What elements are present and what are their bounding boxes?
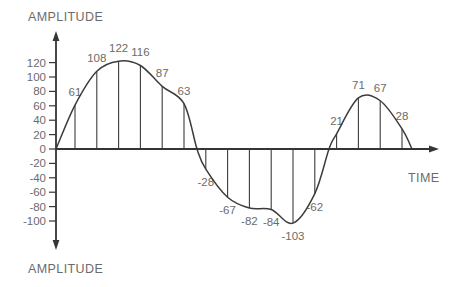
y-tick-label: 60 — [33, 100, 46, 112]
y-axis-label-top: AMPLITUDE — [28, 10, 103, 24]
sample-value-label: 71 — [352, 79, 365, 91]
y-tick-label: 20 — [33, 129, 46, 141]
y-tick-label: 0 — [40, 143, 46, 155]
sample-value-label: -62 — [306, 201, 323, 213]
sample-value-label: 87 — [156, 67, 169, 79]
sample-value-label: 122 — [109, 42, 128, 54]
y-tick-label: -100 — [23, 215, 46, 227]
y-tick-label: 120 — [27, 57, 46, 69]
sample-value-label: -103 — [281, 230, 304, 242]
sample-value-label: 116 — [131, 46, 149, 58]
y-tick-label: 40 — [33, 114, 46, 126]
sample-value-label: 28 — [396, 110, 409, 122]
sample-value-label: -67 — [219, 204, 236, 216]
y-tick-label: -20 — [29, 157, 46, 169]
y-axis-arrow-up-icon — [53, 31, 60, 41]
y-tick-label: 80 — [33, 85, 46, 97]
y-tick-label: 100 — [27, 71, 46, 83]
x-axis-label: TIME — [408, 171, 439, 185]
waveform-chart: 120100806040200-20-40-60-80-100611081221… — [0, 0, 456, 287]
x-axis-arrow-right-icon — [429, 146, 439, 153]
y-tick-label: -40 — [29, 172, 46, 184]
sample-value-label: 108 — [87, 52, 106, 64]
sample-value-label: -84 — [263, 216, 280, 228]
sample-value-label: 63 — [178, 85, 191, 97]
y-axis-arrow-down-icon — [53, 240, 60, 250]
y-axis-label-bottom: AMPLITUDE — [28, 262, 103, 276]
y-tick-label: -80 — [29, 201, 46, 213]
y-tick-label: -60 — [29, 186, 46, 198]
waveform-figure: 120100806040200-20-40-60-80-100611081221… — [0, 0, 456, 287]
sample-value-label: -82 — [241, 215, 258, 227]
sample-value-label: 67 — [374, 82, 387, 94]
